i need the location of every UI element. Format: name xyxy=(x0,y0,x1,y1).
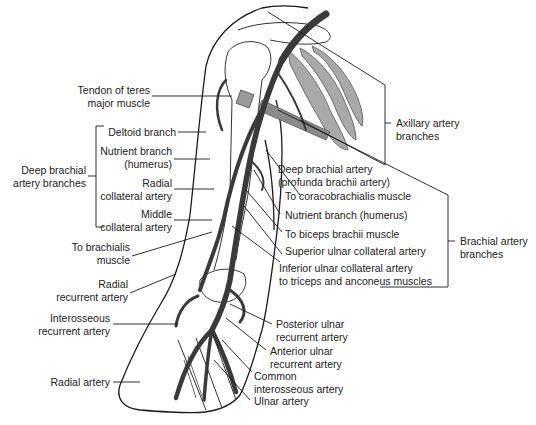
leader-lines xyxy=(88,12,455,400)
label-interosseous-recurrent: Interosseous recurrent artery xyxy=(20,312,110,337)
label-radial-recurrent: Radial recurrent artery xyxy=(36,278,128,303)
label-tendon-teres-major: Tendon of teres major muscle xyxy=(60,84,150,109)
label-deep-brachial-group: Deep brachial artery branches xyxy=(0,164,86,189)
label-common-interosseous: Common interosseous artery xyxy=(254,370,343,395)
label-to-coracobrachialis: To coracobrachialis muscle xyxy=(285,190,411,203)
label-middle-collateral: Middle collateral artery xyxy=(96,208,172,233)
label-radial-artery: Radial artery xyxy=(30,376,110,389)
label-ulnar-artery: Ulnar artery xyxy=(254,395,309,408)
label-to-brachialis: To brachialis muscle xyxy=(50,241,130,266)
label-inferior-ulnar-collateral: Inferior ulnar collateral artery to tric… xyxy=(279,262,432,287)
label-anterior-ulnar-recurrent: Anterior ulnar recurrent artery xyxy=(270,345,342,370)
label-superior-ulnar-collateral: Superior ulnar collateral artery xyxy=(285,245,426,258)
arm-illustration xyxy=(0,0,536,425)
label-deep-brachial: Deep brachial artery (profunda brachii a… xyxy=(278,163,390,188)
label-posterior-ulnar-recurrent: Posterior ulnar recurrent artery xyxy=(276,318,348,343)
label-radial-collateral: Radial collateral artery xyxy=(96,177,172,202)
arm-arteries-diagram: Tendon of teres major muscle Deltoid bra… xyxy=(0,0,536,425)
label-to-biceps: To biceps brachii muscle xyxy=(285,228,399,241)
label-brachial-group: Brachial artery branches xyxy=(460,235,528,260)
label-axillary-group: Axillary artery branches xyxy=(396,117,460,142)
label-nutrient-branch-right: Nutrient branch (humerus) xyxy=(285,209,408,222)
ulnar-artery-path xyxy=(212,330,236,392)
label-deltoid-branch: Deltoid branch xyxy=(96,126,176,139)
label-nutrient-branch-left: Nutrient branch (humerus) xyxy=(96,145,172,170)
